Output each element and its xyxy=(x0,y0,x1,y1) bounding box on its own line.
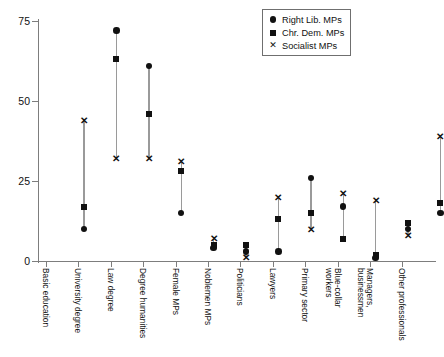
x-tick-mark xyxy=(402,262,403,267)
y-tick-label: 25 xyxy=(0,176,30,186)
category-label-line: workers xyxy=(323,268,332,308)
data-point-circle xyxy=(340,203,347,210)
y-tick-mark xyxy=(32,261,38,262)
data-point-cross: ✕ xyxy=(242,253,251,262)
data-point-circle xyxy=(437,210,444,217)
category-label: Law degree xyxy=(106,268,115,312)
cross-marker-icon: ✕ xyxy=(267,41,279,50)
circle-glyph xyxy=(270,16,277,23)
x-tick-mark xyxy=(111,262,112,267)
chart-legend: Right Lib. MPsChr. Dem. MPs✕Socialist MP… xyxy=(262,9,351,56)
category-label: Other professionals xyxy=(397,268,406,341)
data-point-circle xyxy=(178,210,185,217)
data-point-square xyxy=(81,204,87,210)
category-label: Managers,businessmen xyxy=(356,268,374,317)
data-point-square xyxy=(437,200,443,206)
range-connector xyxy=(310,178,311,229)
y-tick-label: 75 xyxy=(0,16,30,26)
legend-row: Chr. Dem. MPs xyxy=(267,26,344,39)
data-point-cross: ✕ xyxy=(80,116,89,125)
y-tick-label: 0 xyxy=(0,256,30,266)
category-label: Noblemen MPs xyxy=(203,268,212,325)
data-point-cross: ✕ xyxy=(306,225,315,234)
x-tick-mark xyxy=(208,262,209,267)
data-point-circle xyxy=(113,27,120,34)
x-tick-mark xyxy=(338,262,339,267)
data-point-circle xyxy=(146,63,153,70)
data-point-cross: ✕ xyxy=(112,154,121,163)
category-label: Blue-collarworkers xyxy=(323,268,341,308)
legend-row: Right Lib. MPs xyxy=(267,13,344,26)
data-point-circle xyxy=(308,175,315,182)
data-point-cross: ✕ xyxy=(209,234,218,243)
category-label: Degree humanities xyxy=(138,268,147,338)
x-axis-line xyxy=(38,261,436,262)
data-point-cross: ✕ xyxy=(177,157,186,166)
data-point-square xyxy=(243,242,249,248)
chart-container: 0255075 ✕✕✕✕✕✕✕✕✕✕✕✕ Basic educationUniv… xyxy=(0,0,444,357)
x-tick-mark xyxy=(273,262,274,267)
data-point-cross: ✕ xyxy=(436,132,444,141)
data-point-square xyxy=(308,210,314,216)
x-tick-mark xyxy=(78,262,79,267)
data-point-square xyxy=(275,216,281,222)
category-label-line: businessmen xyxy=(356,268,365,317)
legend-row: ✕Socialist MPs xyxy=(267,39,344,52)
circle-marker-icon xyxy=(267,16,279,23)
category-label: Female MPs xyxy=(170,268,179,315)
data-point-square xyxy=(113,56,119,62)
x-tick-mark xyxy=(46,262,47,267)
legend-label: Chr. Dem. MPs xyxy=(282,28,344,38)
category-label: Lawyers xyxy=(268,268,277,299)
legend-label: Socialist MPs xyxy=(282,41,337,51)
data-point-cross: ✕ xyxy=(404,231,413,240)
data-point-circle xyxy=(81,226,88,233)
category-label-line: Managers, xyxy=(365,268,374,317)
data-point-cross: ✕ xyxy=(144,154,153,163)
x-tick-mark xyxy=(143,262,144,267)
data-point-cross: ✕ xyxy=(371,196,380,205)
data-point-square xyxy=(340,236,346,242)
x-tick-mark xyxy=(370,262,371,267)
range-connector xyxy=(116,31,117,159)
data-point-square xyxy=(178,168,184,174)
category-label: Politicians xyxy=(235,268,244,306)
range-connector xyxy=(375,200,376,258)
data-point-square xyxy=(405,220,411,226)
data-point-cross: ✕ xyxy=(274,193,283,202)
range-connector xyxy=(343,194,344,239)
legend-label: Right Lib. MPs xyxy=(282,15,342,25)
x-tick-mark xyxy=(176,262,177,267)
range-connector xyxy=(83,120,84,229)
square-marker-icon xyxy=(267,30,279,36)
square-glyph xyxy=(270,30,276,36)
plot-area: ✕✕✕✕✕✕✕✕✕✕✕✕ xyxy=(38,21,434,261)
category-label: Primary sector xyxy=(300,268,309,322)
data-point-square xyxy=(373,252,379,258)
data-point-cross: ✕ xyxy=(339,189,348,198)
y-tick-label: 50 xyxy=(0,96,30,106)
range-connector xyxy=(278,197,279,251)
data-point-square xyxy=(146,111,152,117)
data-point-circle xyxy=(275,248,282,255)
x-tick-mark xyxy=(305,262,306,267)
category-label: University degree xyxy=(73,268,82,333)
category-label: Basic education xyxy=(41,268,50,327)
